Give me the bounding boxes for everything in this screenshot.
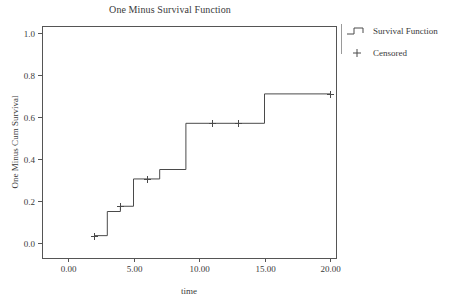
censored-markers [91, 91, 334, 240]
y-tick-label: 0.0 [24, 239, 36, 249]
chart-figure: One Minus Survival Function 0.005.0010.0… [0, 0, 453, 304]
plot-border [43, 27, 337, 259]
survival-step-curve [94, 94, 330, 236]
y-axis-title: One Minus Cum Survival [10, 95, 20, 188]
x-tick-label: 15.00 [255, 264, 276, 274]
y-tick-label: 0.2 [24, 197, 35, 207]
censored-marker [235, 120, 242, 127]
x-tick-label: 5.00 [127, 264, 143, 274]
axis-ticks [38, 34, 331, 263]
y-tick-label: 0.6 [24, 113, 36, 123]
legend-divider [341, 24, 342, 54]
y-tick-label: 0.4 [24, 155, 36, 165]
plot-frame [43, 27, 337, 259]
legend-label-censored: Censored [369, 48, 407, 58]
y-tick-label: 1.0 [24, 29, 36, 39]
step-line [94, 94, 330, 236]
legend-label-survival-function: Survival Function [369, 26, 438, 36]
x-tick-label: 0.00 [61, 264, 77, 274]
plus-glyph-icon [345, 46, 369, 60]
censored-marker [327, 91, 334, 98]
x-tick-label: 20.00 [320, 264, 341, 274]
censored-marker [144, 176, 151, 183]
axis-tick-labels: 0.005.0010.0015.0020.000.00.20.40.60.81.… [24, 29, 341, 275]
censored-marker [209, 120, 216, 127]
y-tick-label: 0.8 [24, 71, 36, 81]
censored-marker [91, 233, 98, 240]
x-tick-label: 10.00 [189, 264, 210, 274]
legend-item-survival-function[interactable]: Survival Function [345, 22, 453, 40]
censored-marker [117, 203, 124, 210]
step-line-glyph-icon [345, 24, 369, 38]
legend-item-censored[interactable]: Censored [345, 44, 453, 62]
x-axis-title: time [181, 286, 197, 296]
chart-legend: Survival Function Censored [345, 22, 453, 66]
